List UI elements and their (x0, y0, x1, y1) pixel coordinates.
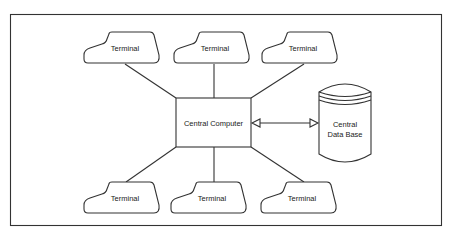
arrowhead-right-icon (310, 119, 318, 127)
central-computer-label: Central Computer (184, 119, 244, 128)
terminal-top-right: Terminal (262, 32, 337, 63)
terminal-bottom-left: Terminal (84, 182, 159, 213)
database-label-line1: Central (333, 120, 358, 129)
link-top-left (125, 64, 176, 98)
terminal-label: Terminal (198, 194, 227, 203)
database-label-line2: Data Base (327, 130, 362, 139)
link-bottom-left (126, 147, 176, 182)
terminal-bottom-right: Terminal (261, 182, 336, 213)
terminal-label: Terminal (289, 44, 318, 53)
arrowhead-left-icon (252, 119, 260, 127)
link-top-right (251, 64, 304, 98)
network-diagram: Terminal Terminal Terminal Terminal Term… (0, 0, 452, 239)
terminal-top-left: Terminal (84, 32, 159, 63)
terminal-label: Terminal (111, 44, 140, 53)
terminal-bottom-center: Terminal (171, 182, 246, 213)
bidirectional-arrow (252, 119, 318, 127)
terminal-top-center: Terminal (174, 32, 249, 63)
link-bottom-right (251, 147, 304, 182)
terminal-label: Terminal (288, 194, 317, 203)
terminal-label: Terminal (111, 194, 140, 203)
central-database: Central Data Base (319, 84, 371, 162)
terminal-label: Terminal (201, 44, 230, 53)
central-computer: Central Computer (176, 98, 251, 147)
